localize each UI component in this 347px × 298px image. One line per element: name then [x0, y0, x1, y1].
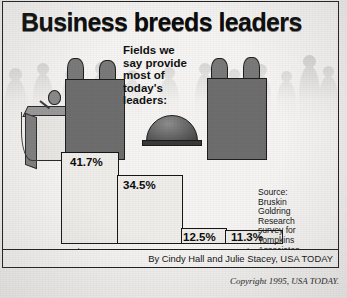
figure-body	[65, 79, 125, 160]
figure-body	[207, 78, 267, 160]
infographic-root: Business breeds leaders Fields we say pr…	[0, 0, 347, 298]
bar-value-label: 34.5%	[123, 179, 156, 191]
podium-base	[142, 140, 202, 146]
source-block: Source: Bruskin Goldring Research survey…	[258, 188, 332, 255]
callout-text: Fields we say provide most of today's le…	[123, 44, 197, 107]
byline-bar: By Cindy Hall and Julie Stacey, USA TODA…	[3, 249, 339, 267]
byline-text: By Cindy Hall and Julie Stacey, USA TODA…	[148, 253, 333, 264]
microphone-cable	[21, 112, 39, 161]
page-title: Business breeds leaders	[21, 8, 302, 37]
copyright-notice: Copyright 1995, USA TODAY.	[230, 276, 339, 286]
seated-figure-left	[65, 58, 127, 158]
bar-value-label: 41.7%	[70, 156, 103, 168]
bar-value-label: 12.5%	[183, 231, 216, 243]
chart-panel: Business breeds leaders Fields we say pr…	[2, 1, 339, 268]
microphone-icon	[48, 90, 61, 105]
seated-figure-right	[207, 57, 269, 157]
